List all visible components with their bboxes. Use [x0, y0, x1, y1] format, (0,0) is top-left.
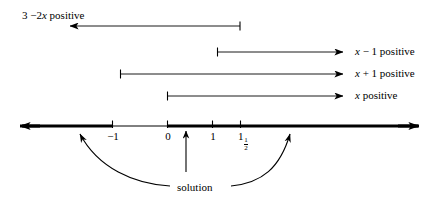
interval-arrow-x-minus-one	[218, 48, 344, 57]
number-line-axis	[20, 121, 419, 129]
tick-label-zero: 0	[158, 131, 178, 142]
diagram-vector-layer	[0, 0, 435, 202]
operation: + 1	[360, 67, 377, 79]
positive-word: positive	[47, 9, 85, 21]
solution-label: solution	[177, 182, 212, 193]
interval-arrow-three-minus-two-x	[70, 22, 240, 31]
interval-label-x-plus-one: x + 1 positive	[355, 68, 415, 79]
interval-label-text: 3	[22, 9, 30, 21]
fraction-numerator: 1	[244, 137, 248, 144]
mixed-number: 112	[238, 131, 248, 152]
number-line-sign-diagram: 3 −2x positive x − 1 positive x + 1 posi…	[0, 0, 435, 202]
interval-label-three-minus-two-x: 3 −2x positive	[22, 10, 84, 21]
tick-label-one-and-half: 112	[231, 131, 255, 152]
interval-label-x-minus-one: x − 1 positive	[355, 46, 415, 57]
tick-label-minus-one: −1	[103, 131, 123, 142]
interval-label-x-positive: x positive	[355, 90, 397, 101]
whole-part: 1	[238, 130, 244, 142]
interval-arrow-x-plus-one	[121, 70, 344, 79]
positive-word: positive	[360, 89, 398, 101]
solution-pointer-left-curve	[80, 134, 170, 186]
fraction-one-half: 12	[244, 137, 248, 152]
positive-word: positive	[377, 67, 415, 79]
fraction-denominator: 2	[244, 144, 248, 152]
interval-arrow-x-positive	[168, 92, 344, 101]
positive-word: positive	[377, 45, 415, 57]
operation: − 1	[360, 45, 377, 57]
tick-label-one: 1	[203, 131, 223, 142]
